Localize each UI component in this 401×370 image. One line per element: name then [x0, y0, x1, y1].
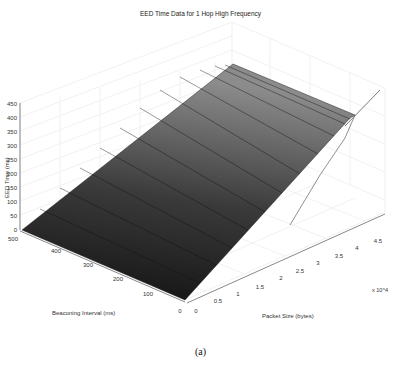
- x-exponent-label: x 10^4: [372, 287, 388, 293]
- svg-text:500: 500: [8, 236, 19, 242]
- svg-text:100: 100: [7, 199, 18, 205]
- svg-text:300: 300: [83, 262, 94, 268]
- svg-text:400: 400: [7, 115, 18, 121]
- svg-text:3: 3: [316, 260, 320, 266]
- svg-text:2.5: 2.5: [296, 268, 305, 274]
- figure: EED Time Data for 1 Hop High Frequency: [0, 0, 401, 370]
- x-axis-label: Packet Size (bytes): [262, 313, 314, 319]
- svg-text:0: 0: [194, 308, 198, 314]
- surface: [22, 64, 380, 300]
- y-axis-label: Beaconing Interval (ms): [52, 310, 115, 316]
- svg-text:4: 4: [355, 245, 359, 251]
- svg-text:4.5: 4.5: [374, 238, 383, 244]
- svg-text:400: 400: [51, 248, 62, 254]
- svg-text:50: 50: [10, 213, 17, 219]
- svg-text:0: 0: [14, 227, 18, 233]
- svg-text:450: 450: [7, 101, 18, 107]
- svg-text:100: 100: [143, 291, 154, 297]
- svg-text:200: 200: [113, 276, 124, 282]
- svg-text:350: 350: [7, 129, 18, 135]
- svg-text:0.5: 0.5: [214, 298, 223, 304]
- figure-caption: (a): [0, 346, 401, 357]
- svg-text:3.5: 3.5: [335, 253, 344, 259]
- svg-text:300: 300: [7, 143, 18, 149]
- z-axis-label: EED Time (ms): [4, 157, 10, 198]
- surface-plot: 0 50 100 150 200 250 300 350 400 450 0 1…: [0, 0, 401, 370]
- svg-text:1: 1: [236, 291, 240, 297]
- svg-text:0: 0: [178, 308, 182, 314]
- svg-text:2: 2: [279, 275, 283, 281]
- svg-text:1.5: 1.5: [256, 284, 265, 290]
